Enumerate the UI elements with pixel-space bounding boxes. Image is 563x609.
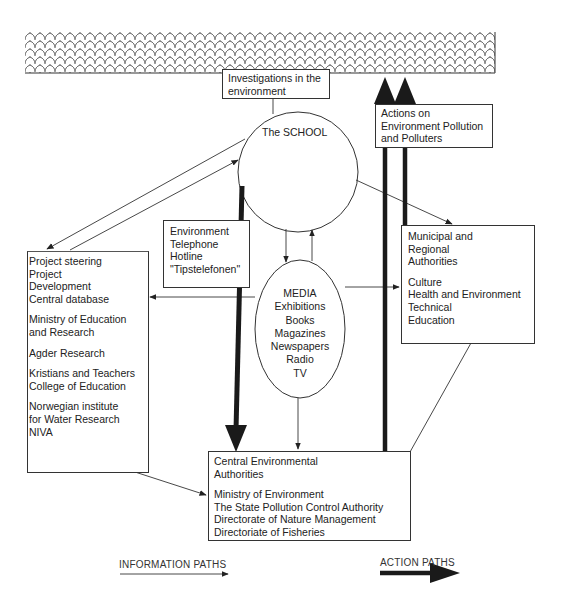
municipal-box: Municipal and Regional Authorities Cultu… — [401, 225, 535, 344]
investigations-line-2: environment — [228, 85, 329, 98]
media-line: Radio — [255, 353, 345, 366]
municipal-line: Health and Environment — [408, 288, 534, 301]
actions-line-1: Actions on — [381, 107, 492, 120]
project-box: Project steering Project Development Cen… — [27, 251, 149, 473]
environment-band — [25, 32, 495, 73]
media-line: Books — [255, 314, 345, 327]
central-line: Central Environmental — [214, 455, 410, 468]
central-line: Authorities — [214, 468, 410, 481]
investigations-line-1: Investigations in the — [228, 72, 329, 85]
project-line: Ministry of Education — [29, 313, 148, 326]
hotline-line-4: "Tipstelefonen" — [170, 263, 249, 276]
municipal-line: Education — [408, 314, 534, 327]
project-line: Project steering — [29, 255, 148, 268]
municipal-line: Municipal and — [408, 230, 534, 243]
central-box: Central Environmental Authorities Minist… — [208, 451, 411, 541]
project-line: Kristians and Teachers — [29, 367, 148, 380]
municipal-line: Technical — [408, 301, 534, 314]
media-line: Newspapers — [255, 340, 345, 353]
media-text: MEDIA Exhibitions Books Magazines Newspa… — [255, 287, 345, 380]
media-line: TV — [255, 367, 345, 380]
project-line: NIVA — [29, 426, 148, 439]
municipal-line: Regional — [408, 243, 534, 256]
municipal-to-environment-action-arrow — [394, 77, 416, 104]
hotline-line-1: Environment — [170, 225, 249, 238]
media-line: MEDIA — [255, 287, 345, 300]
legend-information-paths: INFORMATION PATHS — [119, 559, 226, 572]
central-line: Directorate of Nature Management — [214, 513, 410, 526]
hotline-box: Environment Telephone Hotline "Tipstelef… — [163, 220, 250, 288]
central-line: The State Pollution Control Authority — [214, 501, 410, 514]
project-line: Agder Research — [29, 347, 148, 360]
project-line: Project — [29, 268, 148, 281]
actions-box: Actions on Environment Pollution and Pol… — [375, 104, 493, 148]
hotline-line-2: Telephone — [170, 238, 249, 251]
actions-line-3: and Polluters — [381, 132, 492, 145]
municipal-line: Authorities — [408, 255, 534, 268]
project-to-central-arrow — [135, 472, 206, 495]
hotline-line-3: Hotline — [170, 250, 249, 263]
project-line: Norwegian institute — [29, 400, 148, 413]
school-to-central-action-arrow — [225, 425, 247, 452]
project-line: Development — [29, 280, 148, 293]
investigations-box: Investigations in the environment — [222, 69, 330, 99]
central-line: Directoriate of Fisheries — [214, 526, 410, 539]
media-line: Magazines — [255, 327, 345, 340]
project-line: College of Education — [29, 380, 148, 393]
project-line: Central database — [29, 293, 148, 306]
municipal-central-connector — [410, 343, 471, 452]
project-line: for Water Research — [29, 413, 148, 426]
central-to-environment-action-arrow — [374, 77, 396, 104]
legend-action-paths: ACTION PATHS — [380, 557, 455, 570]
municipal-line: Culture — [408, 276, 534, 289]
actions-line-2: Environment Pollution — [381, 120, 492, 133]
project-line: and Research — [29, 326, 148, 339]
media-line: Exhibitions — [255, 300, 345, 313]
central-line: Ministry of Environment — [214, 488, 410, 501]
school-label: The SCHOOL — [262, 126, 327, 139]
